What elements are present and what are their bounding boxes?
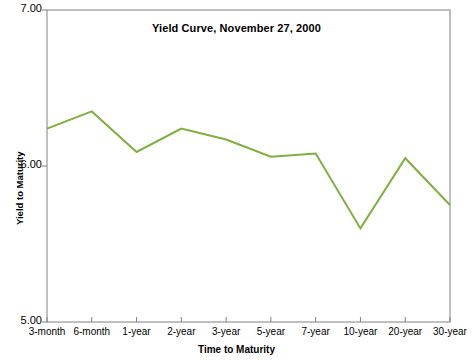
chart-canvas xyxy=(0,0,473,360)
plot-area-frame xyxy=(47,10,450,322)
y-axis-ticks xyxy=(42,10,47,322)
y-axis-tick-label: 7.00 xyxy=(0,2,42,14)
chart-title: Yield Curve, November 27, 2000 xyxy=(0,22,473,34)
x-axis-tick-label: 30-year xyxy=(422,326,473,337)
x-axis-title: Time to Maturity xyxy=(0,344,473,355)
y-axis-tick-label: 6.00 xyxy=(0,158,42,170)
y-axis-tick-label: 5.00 xyxy=(0,314,42,326)
yield-curve-chart: Yield Curve, November 27, 2000 Yield to … xyxy=(0,0,473,360)
